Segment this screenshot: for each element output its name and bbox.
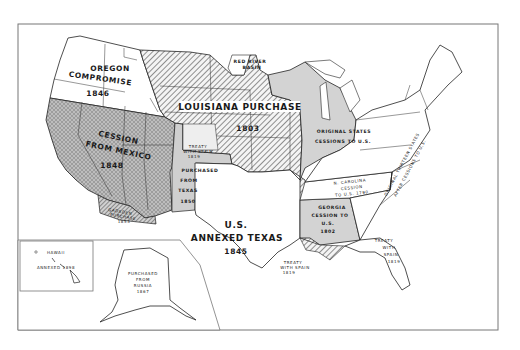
label-florida-1: TREATY bbox=[374, 238, 394, 243]
label-gadsden-year: 1853 bbox=[118, 219, 131, 224]
label-alaska-3: RUSSIA bbox=[134, 283, 152, 288]
label-purchased-texas-1: PURCHASED bbox=[181, 168, 218, 173]
label-gulf-year: 1819 bbox=[283, 270, 296, 275]
label-alaska-2: FROM bbox=[136, 277, 150, 282]
label-louisiana-1: LOUISIANA PURCHASE bbox=[178, 102, 302, 112]
label-original-2: CESSIONS TO U.S. bbox=[315, 139, 371, 144]
label-oregon-1: OREGON bbox=[90, 64, 130, 73]
label-louisiana-year: 1803 bbox=[236, 124, 259, 133]
territorial-map: OREGON COMPROMISE 1846 LOUISIANA PURCHAS… bbox=[0, 0, 520, 350]
label-florida-3: SPAIN bbox=[384, 252, 399, 257]
label-mexico-year: 1848 bbox=[100, 161, 123, 170]
label-purchased-texas-2: FROM bbox=[180, 178, 198, 183]
label-alaska-1: PURCHASED bbox=[128, 271, 158, 276]
label-purchased-texas-year: 1850 bbox=[180, 199, 195, 204]
label-red-river-2: BASIN bbox=[243, 65, 262, 70]
label-georgia-year: 1802 bbox=[320, 229, 335, 234]
label-purchased-texas-3: TEXAS bbox=[178, 188, 198, 193]
label-alaska-year: 1867 bbox=[137, 289, 150, 294]
label-treaty-north-year: 1819 bbox=[188, 154, 201, 159]
label-florida-year: 1819 bbox=[388, 259, 401, 264]
label-hawaii-1: HAWAII bbox=[47, 250, 65, 255]
label-original-1: ORIGINAL STATES bbox=[317, 129, 371, 134]
label-texas-2: ANNEXED TEXAS bbox=[191, 233, 283, 243]
label-oregon-year: 1846 bbox=[86, 89, 109, 98]
label-hawaii-2: ANNEXED 1898 bbox=[37, 265, 75, 270]
label-georgia-1: GEORGIA bbox=[318, 205, 346, 210]
label-georgia-2: CESSION TO bbox=[311, 213, 348, 218]
label-texas-1: U.S. bbox=[224, 220, 247, 230]
label-florida-2: WITH bbox=[383, 245, 396, 250]
label-texas-year: 1845 bbox=[224, 247, 247, 256]
label-georgia-3: U.S. bbox=[322, 221, 335, 226]
label-red-river-1: RED RIVER bbox=[234, 59, 267, 64]
